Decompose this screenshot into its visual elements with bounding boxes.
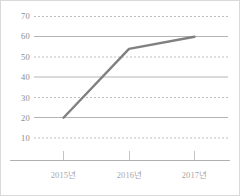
line-chart: 70 60 50 40 30 20 10 2015년 2016년 2017년	[0, 0, 240, 196]
y-tick-label-50: 50	[4, 53, 30, 62]
chart-plot-area	[0, 0, 240, 196]
y-tick-label-20: 20	[4, 114, 30, 123]
y-tick-label-30: 30	[4, 94, 30, 103]
y-tick-label-10: 10	[4, 134, 30, 143]
x-tick-label-2015: 2015년	[38, 170, 90, 180]
x-tick-label-2016: 2016년	[104, 170, 156, 180]
y-tick-label-60: 60	[4, 32, 30, 41]
y-tick-label-70: 70	[4, 12, 30, 21]
x-tick-label-2017: 2017년	[169, 170, 221, 180]
y-tick-label-40: 40	[4, 73, 30, 82]
